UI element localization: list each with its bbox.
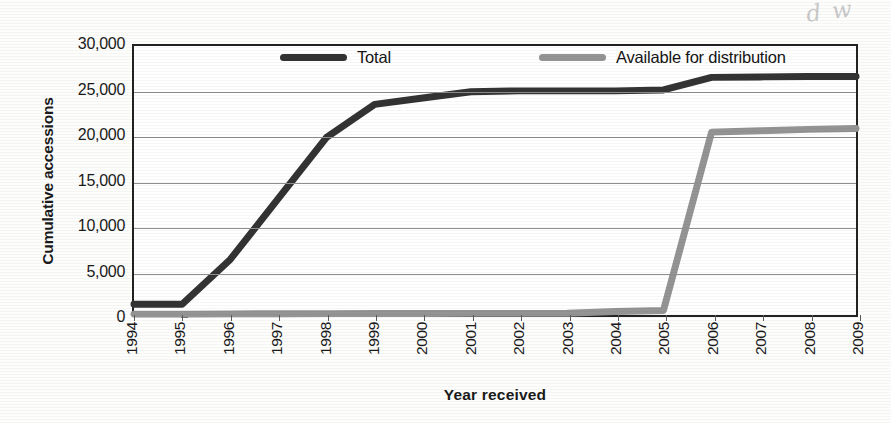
plot-area: TotalAvailable for distribution: [132, 44, 858, 317]
legend-swatch: [539, 54, 606, 61]
x-axis-tick-mark: [763, 315, 764, 321]
x-axis-tick-label: 2008: [802, 322, 818, 380]
x-axis-tick-mark: [812, 315, 813, 321]
x-axis-tick-label: 2000: [414, 322, 430, 380]
x-axis-tick-label: 2005: [656, 322, 672, 380]
x-axis-tick-mark: [424, 315, 425, 321]
y-axis-tick-label: 15,000: [55, 172, 125, 190]
x-axis-title: Year received: [132, 386, 858, 404]
x-axis-tick-label: 2002: [511, 322, 527, 380]
gridline: [134, 228, 856, 229]
x-axis-tick-mark: [618, 315, 619, 321]
chart-legend: TotalAvailable for distribution: [134, 48, 856, 76]
y-axis-tick-labels: 05,00010,00015,00020,00025,00030,000: [55, 44, 125, 317]
gridline: [134, 183, 856, 184]
x-axis-tick-label: 2004: [608, 322, 624, 380]
gridline: [134, 92, 856, 93]
y-axis-tick-label: 0: [55, 308, 125, 326]
x-axis-tick-mark: [231, 315, 232, 321]
x-axis-tick-mark: [666, 315, 667, 321]
x-axis-tick-label: 2003: [560, 322, 576, 380]
y-axis-tick-label: 25,000: [55, 81, 125, 99]
x-axis-tick-label: 1994: [124, 322, 140, 380]
x-axis-tick-mark: [521, 315, 522, 321]
y-axis-tick-label: 30,000: [55, 35, 125, 53]
x-axis-tick-label: 2001: [463, 322, 479, 380]
x-axis-tick-mark: [376, 315, 377, 321]
series-line: [134, 128, 856, 314]
x-axis-tick-mark: [182, 315, 183, 321]
x-axis-tick-mark: [570, 315, 571, 321]
x-axis-tick-label: 1995: [172, 322, 188, 380]
x-axis-tick-mark: [134, 315, 135, 321]
gridline: [134, 137, 856, 138]
y-axis-tick-label: 5,000: [55, 263, 125, 281]
x-axis-tick-mark: [328, 315, 329, 321]
x-axis-tick-label: 2007: [753, 322, 769, 380]
legend-item[interactable]: Total: [280, 48, 391, 67]
x-axis-tick-labels: 1994199519961997199819992000200120022003…: [132, 322, 858, 380]
gridline: [134, 274, 856, 275]
x-axis-tick-mark: [860, 315, 861, 321]
x-axis-tick-label: 1999: [366, 322, 382, 380]
legend-item[interactable]: Available for distribution: [539, 48, 786, 67]
x-axis-tick-mark: [715, 315, 716, 321]
chart-figure: d w ·′ Cumulative accessions 05,00010,00…: [0, 0, 891, 423]
x-axis-tick-label: 1997: [269, 322, 285, 380]
x-axis-tick-label: 1996: [221, 322, 237, 380]
x-axis-tick-mark: [473, 315, 474, 321]
x-axis-tick-label: 1998: [318, 322, 334, 380]
y-axis-tick-label: 10,000: [55, 217, 125, 235]
x-axis-tick-mark: [279, 315, 280, 321]
x-axis-tick-label: 2006: [705, 322, 721, 380]
legend-label: Available for distribution: [616, 48, 786, 67]
legend-swatch: [280, 54, 347, 61]
y-axis-tick-label: 20,000: [55, 126, 125, 144]
series-lines: [134, 46, 856, 315]
legend-label: Total: [357, 48, 391, 67]
series-line: [134, 76, 856, 304]
handwritten-annotation-top-right: d w: [805, 0, 856, 27]
x-axis-tick-label: 2009: [850, 322, 866, 380]
